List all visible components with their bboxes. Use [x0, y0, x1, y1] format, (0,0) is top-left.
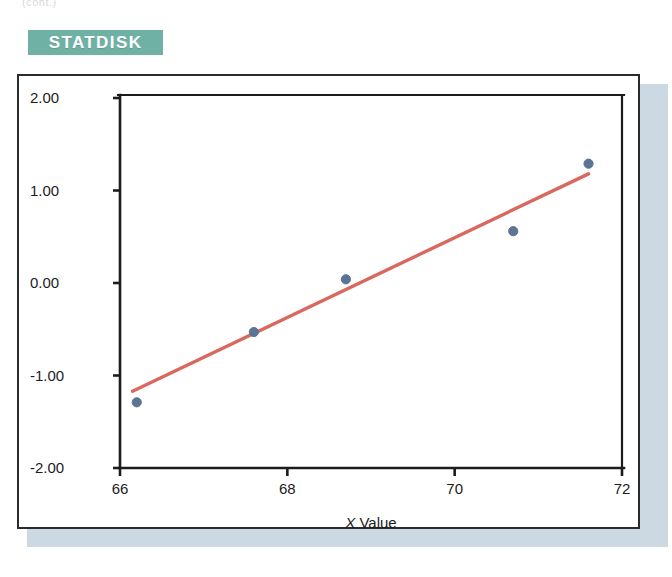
scatterplot-canvas: -2.00-1.000.001.002.0066687072X Value: [2, 2, 672, 577]
y-tick-label: 0.00: [30, 274, 59, 291]
x-tick-label: 68: [279, 480, 296, 497]
y-tick-label: -1.00: [30, 367, 64, 384]
y-tick-label: 1.00: [30, 182, 59, 199]
regression-line: [133, 174, 589, 391]
data-point[interactable]: [132, 398, 141, 407]
plot-area: -2.00-1.000.001.002.0066687072X Value: [19, 76, 642, 531]
y-tick-label: -2.00: [30, 459, 64, 476]
data-point[interactable]: [341, 275, 350, 284]
data-point[interactable]: [509, 227, 518, 236]
x-axis-title-text: Value: [355, 514, 396, 531]
data-point[interactable]: [584, 159, 593, 168]
data-point[interactable]: [249, 327, 258, 336]
y-tick-label: 2.00: [30, 89, 59, 106]
x-axis-title: X Value: [344, 514, 396, 531]
scatterplot-figure: -2.00-1.000.001.002.0066687072X Value: [17, 74, 640, 529]
x-tick-label: 66: [112, 480, 129, 497]
x-tick-label: 70: [446, 480, 463, 497]
x-tick-label: 72: [614, 480, 631, 497]
